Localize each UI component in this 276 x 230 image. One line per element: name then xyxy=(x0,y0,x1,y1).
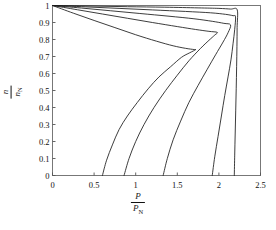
x-axis-label-denominator-subscript: N xyxy=(138,208,143,215)
y-tick-label: 0.1 xyxy=(39,154,50,164)
x-tick-label: 1 xyxy=(134,180,138,190)
y-tick-label: 0.7 xyxy=(39,52,50,62)
x-axis-label-numerator: P xyxy=(131,192,145,201)
y-axis-label-numerator: n xyxy=(1,85,10,98)
x-tick-label: 2 xyxy=(217,180,221,190)
y-tick-label: 0.9 xyxy=(39,18,50,28)
y-tick-label: 0.6 xyxy=(39,69,50,79)
y-tick-label: 1 xyxy=(45,1,49,11)
y-tick-label: 0.5 xyxy=(39,86,50,96)
plot-frame xyxy=(53,6,261,176)
y-tick-label: 0.8 xyxy=(39,35,50,45)
x-axis-label-denominator: PN xyxy=(131,204,145,216)
x-tick-label: 0 xyxy=(50,180,54,190)
y-tick-label: 0.4 xyxy=(39,103,50,113)
x-tick-label: 1.5 xyxy=(172,180,183,190)
y-tick-label: 0.2 xyxy=(39,137,50,147)
y-axis-label: n nN xyxy=(1,85,25,98)
x-tick-label: 0.5 xyxy=(89,180,100,190)
y-axis-label-denominator: nN xyxy=(13,85,25,98)
x-axis-label: P PN xyxy=(131,192,145,216)
y-tick-label: 0.3 xyxy=(39,120,50,130)
x-tick-label: 2.5 xyxy=(255,180,266,190)
chart-figure: 00.511.522.5 00.10.20.30.40.50.60.70.80.… xyxy=(0,0,276,230)
y-axis-label-denominator-subscript: N xyxy=(17,87,24,92)
y-tick-label: 0 xyxy=(45,171,49,181)
